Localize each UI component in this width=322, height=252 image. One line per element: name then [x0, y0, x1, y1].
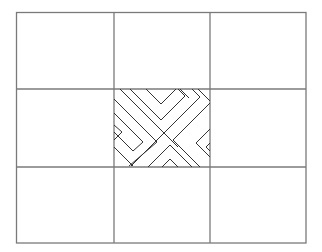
pattern-chevron-bottom-2	[162, 159, 178, 167]
pattern-chevron-top-5	[198, 89, 210, 101]
grid-diagram	[0, 0, 322, 252]
pattern-chevron-right-1	[196, 129, 210, 157]
pattern-chevron-bottom-1	[148, 145, 192, 167]
center-cell-pattern	[114, 89, 210, 167]
pattern-chevron-top-2	[146, 89, 176, 104]
pattern-chevron-top-1	[130, 89, 185, 120]
grid-lines	[17, 13, 307, 244]
pattern-chevron-tl-1	[120, 89, 178, 147]
pattern-chevron-tl-3	[114, 113, 143, 151]
grid-outer-border	[17, 13, 307, 244]
pattern-chevron-tl-5	[114, 147, 133, 166]
